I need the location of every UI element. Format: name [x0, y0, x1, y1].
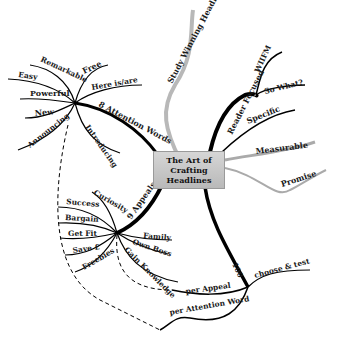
leaf-introducing: Introducing [83, 123, 120, 170]
branch-label-study: Study Winning Headlines [165, 0, 228, 85]
central-topic: The Art of Crafting Headlines [153, 151, 225, 189]
leaf-specific: Specific [245, 103, 281, 125]
leaf-new: New [34, 106, 55, 118]
leaf-powerful: Powerful [30, 88, 70, 98]
branch-label-attention: 8 Attention Words [97, 99, 174, 146]
mind-map-canvas: Study Winning Headlines Reader Focused W… [0, 0, 338, 338]
leaf-so-what: So What? [263, 77, 304, 95]
leaf-choose-test: choose & test [253, 256, 311, 280]
leaf-success: Success [66, 197, 100, 209]
leaf-save: Save £ [72, 242, 100, 255]
branch-label-reader: Reader Focused [225, 68, 266, 136]
central-topic-line1: The Art of Crafting [154, 155, 224, 175]
leaf-bargain: Bargain [65, 213, 100, 224]
central-topic-line2: Headlines [154, 175, 224, 185]
leaf-get-fit: Get Fit [68, 229, 97, 238]
leaf-here-is-are: Here is/are [91, 75, 139, 92]
leaf-measurable: Measurable [255, 140, 308, 156]
